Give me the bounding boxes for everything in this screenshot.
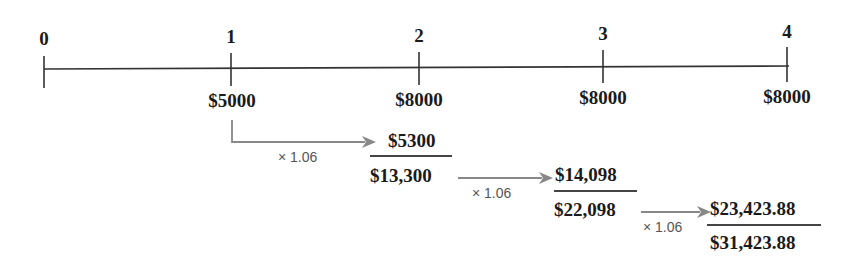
sum-underline-3 xyxy=(707,224,821,226)
cash-flow-4: $8000 xyxy=(763,86,811,108)
period-label-3: 3 xyxy=(598,23,608,45)
multiplier-label-2: × 1.06 xyxy=(472,185,511,201)
multiplier-label-1: × 1.06 xyxy=(278,149,317,165)
cash-flow-1: $5000 xyxy=(208,90,256,112)
cash-flow-2: $8000 xyxy=(395,89,443,111)
period-label-1: 1 xyxy=(226,26,236,48)
cumulative-value-1: $13,300 xyxy=(370,165,432,187)
period-label-2: 2 xyxy=(414,25,424,47)
growth-arrow-1 xyxy=(232,120,365,142)
sum-underline-1 xyxy=(370,155,452,157)
period-label-0: 0 xyxy=(39,28,49,50)
grown-value-1: $5300 xyxy=(388,130,436,152)
sum-underline-2 xyxy=(554,190,637,192)
period-label-4: 4 xyxy=(782,21,792,43)
cumulative-value-3: $31,423.88 xyxy=(710,232,796,254)
timeline-axis xyxy=(44,66,789,69)
multiplier-label-3: × 1.06 xyxy=(643,219,682,235)
grown-value-3: $23,423.88 xyxy=(710,198,796,220)
cumulative-value-2: $22,098 xyxy=(554,199,616,221)
grown-value-2: $14,098 xyxy=(555,164,617,186)
cash-flow-3: $8000 xyxy=(579,87,627,109)
